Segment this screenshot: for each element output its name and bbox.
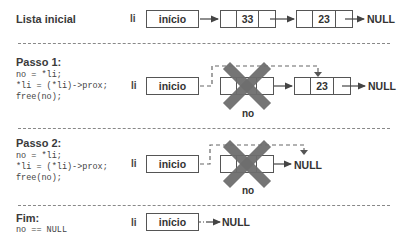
arrow-end-icon	[0, 0, 405, 249]
